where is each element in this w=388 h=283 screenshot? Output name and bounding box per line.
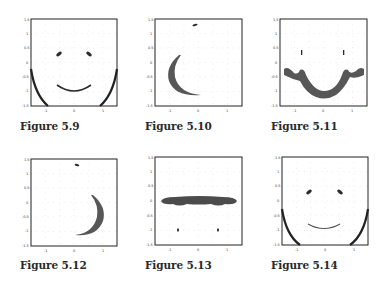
figure-5-11: 1.510.50-0.5-1-1.5 -101 Figure 5.11 <box>250 0 375 140</box>
svg-text:1: 1 <box>150 170 152 174</box>
svg-text:-1: -1 <box>44 249 48 253</box>
svg-text:-0.5: -0.5 <box>22 75 29 79</box>
figure-5-14: 1.510.50-0.5-1-1.5 -101 Figure 5.14 <box>250 140 375 280</box>
svg-text:-1: -1 <box>295 248 299 252</box>
svg-text:1.5: 1.5 <box>275 156 281 160</box>
svg-text:0: 0 <box>275 61 277 65</box>
figure-5-10: 1.510.50-0.5-1-1.5 -101 Figure 5.10 <box>125 0 250 140</box>
svg-text:-0.5: -0.5 <box>22 215 29 219</box>
plot-5-11: 1.510.50-0.5-1-1.5 -101 <box>280 19 367 106</box>
svg-text:0: 0 <box>150 61 152 65</box>
svg-text:-1.5: -1.5 <box>146 243 153 247</box>
svg-text:-1: -1 <box>168 109 172 113</box>
svg-text:0.5: 0.5 <box>275 184 281 188</box>
svg-text:-1: -1 <box>168 248 172 252</box>
svg-text:1: 1 <box>26 32 28 36</box>
svg-text:0: 0 <box>324 248 326 252</box>
plot-5-13: 1.510.50-0.5-1-1.5 -101 <box>155 157 242 245</box>
svg-text:1: 1 <box>277 170 279 174</box>
figure-5-9: 1.510.50-0.5-1-1.5 -101 Figure 5.9 <box>0 0 125 140</box>
crescent-right-plot: 1.510.50-0.5-1-1.5 -101 <box>31 159 117 246</box>
grid <box>31 19 117 106</box>
plot-5-14: 1.510.50-0.5-1-1.5 -101 <box>282 157 368 245</box>
svg-text:1.5: 1.5 <box>148 156 154 160</box>
svg-text:0: 0 <box>26 201 28 205</box>
svg-text:-0.5: -0.5 <box>271 75 278 79</box>
svg-text:-1: -1 <box>25 89 29 93</box>
svg-text:1: 1 <box>226 109 228 113</box>
svg-text:0.5: 0.5 <box>24 46 30 50</box>
face-plot: 1.510.50-0.5-1-1.5 -101 <box>282 157 368 245</box>
svg-text:-1: -1 <box>25 229 29 233</box>
face-plot: 1.510.50-0.5-1-1.5 -101 <box>31 19 117 106</box>
figure-caption: Figure 5.11 <box>271 120 338 132</box>
svg-text:0.5: 0.5 <box>273 46 279 50</box>
svg-text:-1: -1 <box>276 228 280 232</box>
svg-text:-1.5: -1.5 <box>22 244 29 248</box>
svg-text:1.5: 1.5 <box>24 18 30 22</box>
svg-text:-1.5: -1.5 <box>146 104 153 108</box>
svg-text:0: 0 <box>197 109 199 113</box>
svg-text:1: 1 <box>275 32 277 36</box>
svg-text:0.5: 0.5 <box>148 46 154 50</box>
svg-text:0: 0 <box>73 249 75 253</box>
figure-caption: Figure 5.12 <box>20 259 87 271</box>
svg-text:-1: -1 <box>149 228 153 232</box>
svg-text:1.5: 1.5 <box>24 158 30 162</box>
plot-5-12: 1.510.50-0.5-1-1.5 -101 <box>31 159 117 246</box>
svg-text:1: 1 <box>226 248 228 252</box>
svg-text:0: 0 <box>322 109 324 113</box>
svg-text:1: 1 <box>150 32 152 36</box>
crescent-left-plot: 1.510.50-0.5-1-1.5 -101 <box>155 19 242 106</box>
plot-5-9: 1.510.50-0.5-1-1.5 -101 <box>31 19 117 106</box>
figure-5-13: 1.510.50-0.5-1-1.5 -101 Figure 5.13 <box>125 140 250 280</box>
svg-text:-1: -1 <box>274 89 278 93</box>
svg-text:1: 1 <box>26 172 28 176</box>
svg-text:1: 1 <box>102 249 104 253</box>
svg-text:0.5: 0.5 <box>148 184 154 188</box>
svg-text:1.5: 1.5 <box>273 18 279 22</box>
svg-text:1: 1 <box>351 109 353 113</box>
svg-text:0: 0 <box>26 61 28 65</box>
svg-text:-0.5: -0.5 <box>146 214 153 218</box>
svg-text:-0.5: -0.5 <box>273 214 280 218</box>
svg-text:0: 0 <box>73 109 75 113</box>
figure-caption: Figure 5.14 <box>271 259 338 271</box>
plot-5-10: 1.510.50-0.5-1-1.5 -101 <box>155 19 242 106</box>
figure-caption: Figure 5.10 <box>145 120 212 132</box>
svg-text:-1.5: -1.5 <box>271 104 278 108</box>
svg-text:-1: -1 <box>149 89 153 93</box>
svg-text:-1.5: -1.5 <box>22 104 29 108</box>
svg-text:-1: -1 <box>44 109 48 113</box>
figure-caption: Figure 5.9 <box>20 120 80 132</box>
svg-text:1: 1 <box>353 248 355 252</box>
svg-text:1: 1 <box>102 109 104 113</box>
horizontal-band-plot: 1.510.50-0.5-1-1.5 -101 <box>155 157 242 245</box>
svg-text:-1.5: -1.5 <box>273 243 280 247</box>
svg-text:-1: -1 <box>293 109 297 113</box>
face-features <box>56 51 93 58</box>
smile-band-plot: 1.510.50-0.5-1-1.5 -101 <box>280 19 367 106</box>
figure-5-12: 1.510.50-0.5-1-1.5 -101 Figure 5.12 <box>0 140 125 280</box>
svg-text:-0.5: -0.5 <box>146 75 153 79</box>
svg-text:0.5: 0.5 <box>24 186 30 190</box>
svg-text:0: 0 <box>150 199 152 203</box>
svg-text:0: 0 <box>197 248 199 252</box>
figure-caption: Figure 5.13 <box>145 259 212 271</box>
svg-text:1.5: 1.5 <box>148 18 154 22</box>
svg-text:0: 0 <box>277 199 279 203</box>
